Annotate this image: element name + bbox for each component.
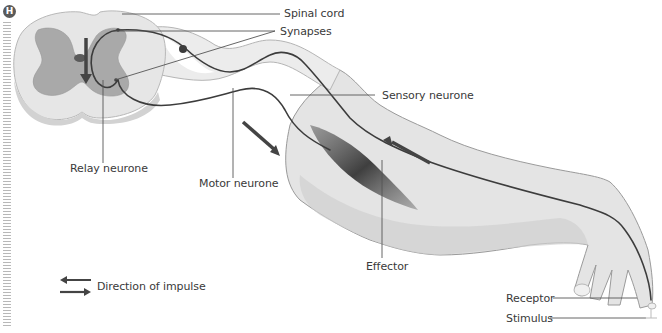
label-stimulus: Stimulus [506, 313, 553, 325]
reflex-arc-diagram: H Spinal cord Synapses Sensory neurone R… [0, 0, 662, 333]
arm-illustration [286, 70, 656, 309]
label-relay-neurone: Relay neurone [70, 163, 148, 175]
label-receptor: Receptor [506, 293, 554, 305]
label-sensory-neurone: Sensory neurone [382, 90, 474, 102]
margin-ruler [3, 22, 11, 328]
stimulus-marker [645, 309, 657, 318]
label-spinal-cord: Spinal cord [284, 8, 344, 20]
legend-label: Direction of impulse [97, 281, 206, 293]
label-effector: Effector [366, 261, 408, 273]
legend-arrows [60, 276, 91, 296]
section-badge: H [3, 5, 16, 18]
dorsal-root-ganglion [179, 45, 187, 53]
label-synapses: Synapses [280, 26, 332, 38]
label-motor-neurone: Motor neurone [199, 178, 278, 190]
